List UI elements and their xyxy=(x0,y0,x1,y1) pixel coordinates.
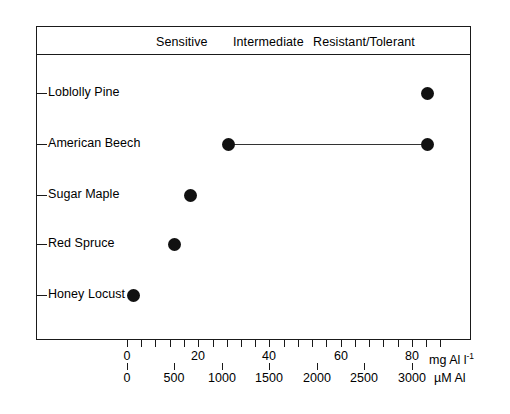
axis-tick-um-2000 xyxy=(317,363,318,370)
axis-tick-mg-56 xyxy=(326,340,327,347)
axis-tick-mg-52 xyxy=(312,340,313,347)
row-label-sugar-maple: Sugar Maple xyxy=(48,188,119,201)
category-header-band: Sensitive Intermediate Resistant/Toleran… xyxy=(36,26,471,55)
axis-tick-mg-84 xyxy=(426,340,427,347)
axis-tick-um-0 xyxy=(127,363,128,370)
axis-label-um-2500: 2500 xyxy=(350,371,378,385)
row-label-american-beech: American Beech xyxy=(48,137,140,150)
axis-tick-mg-80 xyxy=(412,340,413,347)
row-tick-american-beech xyxy=(36,144,47,145)
axis-tick-mg-64 xyxy=(355,340,356,347)
axis-label-mg-40: 40 xyxy=(262,349,276,363)
axis-tick-um-500 xyxy=(174,363,175,370)
range-line-american-beech xyxy=(228,144,427,145)
row-tick-sugar-maple xyxy=(36,195,47,196)
row-tick-honey-locust xyxy=(36,295,47,296)
axis-tick-um-1500 xyxy=(269,363,270,370)
axis-label-mg-80: 80 xyxy=(405,349,419,363)
category-label-resistant-tolerant: Resistant/Tolerant xyxy=(313,35,415,49)
axis-label-um-3000: 3000 xyxy=(398,371,426,385)
axis-label-um-2000: 2000 xyxy=(303,371,331,385)
data-point-red-spruce xyxy=(168,238,181,251)
axis-tick-mg-72 xyxy=(383,340,384,347)
data-point-honey-locust xyxy=(127,289,140,302)
axis-tick-um-1000 xyxy=(222,363,223,370)
data-point-american-beech-low xyxy=(222,138,235,151)
data-point-american-beech-high xyxy=(421,138,434,151)
data-point-loblolly-pine xyxy=(421,87,434,100)
axis-tick-mg-4 xyxy=(141,340,142,347)
row-label-honey-locust: Honey Locust xyxy=(48,288,125,301)
axis-label-um-500: 500 xyxy=(164,371,185,385)
axis-tick-mg-68 xyxy=(369,340,370,347)
axis-tick-um-2500 xyxy=(364,363,365,370)
row-label-loblolly-pine: Loblolly Pine xyxy=(48,86,120,99)
axis-unit-mg: mg Al l-1 xyxy=(429,349,474,367)
axis-tick-mg-48 xyxy=(298,340,299,347)
axis-tick-mg-28 xyxy=(227,340,228,347)
axis-unit-mg-exponent: -1 xyxy=(467,351,475,361)
axis-tick-mg-60 xyxy=(341,340,342,347)
plot-area: Loblolly Pine American Beech Sugar Maple… xyxy=(36,55,471,340)
axis-label-um-1000: 1000 xyxy=(208,371,236,385)
axis-unit-mg-text: mg Al l xyxy=(429,353,467,367)
row-tick-red-spruce xyxy=(36,244,47,245)
axis-tick-mg-88 xyxy=(440,340,441,347)
axis-tick-mg-32 xyxy=(241,340,242,347)
axis-tick-mg-24 xyxy=(213,340,214,347)
axis-unit-um: µM Al xyxy=(434,371,466,385)
axis-label-mg-0: 0 xyxy=(124,349,131,363)
axis-tick-mg-36 xyxy=(255,340,256,347)
axis-tick-mg-40 xyxy=(269,340,270,347)
axis-label-um-0: 0 xyxy=(124,371,131,385)
axis-tick-mg-12 xyxy=(170,340,171,347)
row-label-red-spruce: Red Spruce xyxy=(48,237,115,250)
category-label-intermediate: Intermediate xyxy=(233,35,304,49)
axis-tick-mg-76 xyxy=(398,340,399,347)
data-point-sugar-maple xyxy=(184,189,197,202)
axis-tick-mg-8 xyxy=(155,340,156,347)
axis-label-um-1500: 1500 xyxy=(255,371,283,385)
chart-page: Sensitive Intermediate Resistant/Toleran… xyxy=(0,0,510,414)
axis-label-mg-60: 60 xyxy=(334,349,348,363)
axis-tick-mg-44 xyxy=(284,340,285,347)
category-label-sensitive: Sensitive xyxy=(156,35,208,49)
row-tick-loblolly-pine xyxy=(36,93,47,94)
axis-label-mg-20: 20 xyxy=(191,349,205,363)
axis-tick-um-3000 xyxy=(412,363,413,370)
axis-tick-mg-16 xyxy=(184,340,185,347)
axis-tick-mg-0 xyxy=(127,340,128,347)
axis-tick-mg-20 xyxy=(198,340,199,347)
